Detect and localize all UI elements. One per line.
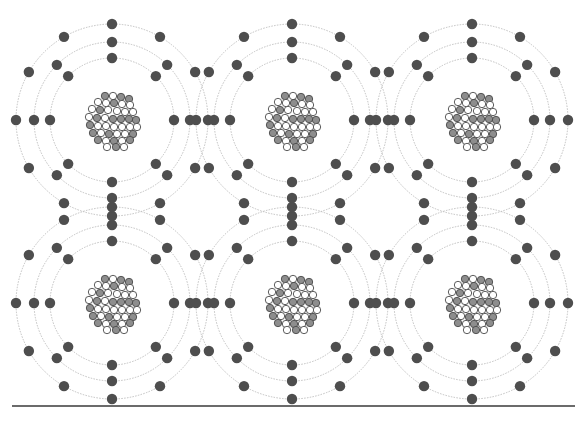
neutron [486,284,493,291]
proton [472,326,479,333]
neutron [290,306,297,313]
electron [467,220,477,230]
neutron [113,130,120,137]
neutron [110,306,117,313]
electron [107,394,117,404]
electron [423,254,433,264]
proton [297,93,304,100]
proton [274,319,281,326]
electron [232,243,242,253]
neutron [301,291,308,298]
electron [63,159,73,169]
proton [290,282,297,289]
electron [515,381,525,391]
neutron [102,122,109,129]
proton [305,298,312,305]
neutron [473,313,480,320]
proton [125,298,132,305]
neutron [306,306,313,313]
electron [467,211,477,221]
electron [107,19,117,29]
electron [423,342,433,352]
proton [477,93,484,100]
electron [225,115,235,125]
neutron [313,123,320,130]
electron [511,342,521,352]
neutron [268,105,275,112]
proton [274,136,281,143]
electron [550,67,560,77]
electron [29,298,39,308]
electron [107,177,117,187]
electron [563,115,573,125]
electron [225,298,235,308]
neutron [293,313,300,320]
electron [204,346,214,356]
neutron [463,143,470,150]
electron [243,342,253,352]
neutron [121,291,128,298]
neutron [478,306,485,313]
electron [467,37,477,47]
electron [522,353,532,363]
proton [110,282,117,289]
electron [419,198,429,208]
electron [24,346,34,356]
neutron [102,99,109,106]
electron [59,215,69,225]
neutron [88,288,95,295]
proton [89,129,96,136]
electron [331,71,341,81]
electron [209,115,219,125]
neutron [298,306,305,313]
electron [287,19,297,29]
proton [306,136,313,143]
proton [276,106,283,113]
neutron [473,107,480,114]
electron [467,360,477,370]
neutron [113,290,120,297]
neutron [126,306,133,313]
electron [151,71,161,81]
neutron [118,283,125,290]
proton [117,93,124,100]
neutron [104,289,111,296]
proton [297,276,304,283]
neutron [120,326,127,333]
electron [467,177,477,187]
proton [101,275,108,282]
electron [162,353,172,363]
neutron [284,289,291,296]
neutron [88,105,95,112]
electron [287,202,297,212]
proton [86,304,93,311]
electron [287,220,297,230]
electron [204,250,214,260]
proton [126,136,133,143]
proton [89,312,96,319]
electron [342,353,352,363]
neutron [481,130,488,137]
electron [515,215,525,225]
proton [289,298,296,305]
neutron [486,306,493,313]
neutron [454,122,461,129]
neutron [268,288,275,295]
neutron [283,143,290,150]
proton [110,99,117,106]
proton [472,143,479,150]
proton [105,130,112,137]
electron [412,353,422,363]
neutron [301,108,308,115]
electron [243,71,253,81]
electron [370,250,380,260]
electron [467,193,477,203]
proton [485,298,492,305]
proton [470,282,477,289]
electron [287,193,297,203]
proton [269,312,276,319]
electron [287,236,297,246]
electron [63,71,73,81]
neutron [282,305,289,312]
electron [162,243,172,253]
